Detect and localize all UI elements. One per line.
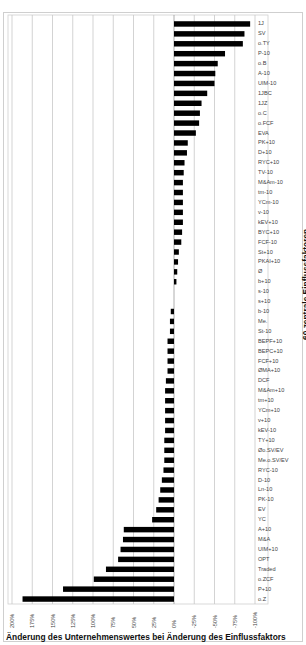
bar (174, 239, 181, 244)
category-label: b+10 (258, 278, 271, 284)
category-label: 1JZ (258, 100, 267, 106)
category-label: tm+10 (258, 397, 274, 403)
category-label: D+10 (258, 149, 272, 155)
bar (106, 567, 174, 572)
category-label: M&Am-10 (258, 179, 283, 185)
x-tick-label: 75% (110, 617, 116, 628)
bar (174, 91, 207, 96)
category-label: FCF+10 (258, 358, 278, 364)
category-label: o.FCF (258, 120, 274, 126)
category-label: FCF-10 (258, 239, 277, 245)
bar (168, 339, 174, 344)
bar (165, 428, 174, 433)
bar (174, 130, 196, 135)
category-label: s-10 (258, 288, 269, 294)
category-label: BYC+10 (258, 229, 279, 235)
category-label: M&A (258, 536, 270, 542)
bar (152, 517, 174, 522)
category-label: St+10 (258, 249, 273, 255)
bar (174, 180, 183, 185)
category-label: OPT (258, 556, 270, 562)
bar (164, 458, 174, 463)
bar (165, 388, 174, 393)
bar (174, 160, 185, 165)
category-label: A-10 (258, 70, 270, 76)
bar (170, 329, 174, 334)
category-label: ØMA+10 (258, 367, 280, 373)
category-label: Me.o.SV/EV (258, 457, 288, 463)
x-tick-label: -50% (212, 615, 218, 628)
bar (156, 507, 174, 512)
bar (174, 120, 199, 125)
category-label: BEPC+10 (258, 348, 283, 354)
category-label: D-10 (258, 477, 270, 483)
category-label: A+10 (258, 526, 271, 532)
bar (174, 51, 225, 56)
category-label: 1JBC (258, 90, 272, 96)
category-label: Me. (258, 318, 267, 324)
category-label: M&Am+10 (258, 387, 284, 393)
x-tick-label: 200% (9, 614, 15, 628)
category-label: 1J (258, 20, 264, 26)
category-label: o.B (258, 60, 266, 66)
category-label: Traded (258, 566, 276, 572)
category-label: RYC+10 (258, 159, 279, 165)
category-label: EVA (258, 130, 269, 136)
category-label: s+10 (258, 298, 270, 304)
bar (174, 229, 182, 234)
category-label: PK+10 (258, 139, 275, 145)
bar (174, 41, 243, 46)
category-label: b-10 (258, 308, 269, 314)
bar (174, 259, 178, 264)
bar (174, 140, 188, 145)
bar (174, 269, 177, 274)
bar (174, 21, 250, 26)
category-label: YCm-10 (258, 199, 279, 205)
category-label: PKAI+10 (258, 258, 280, 264)
category-label: kEV+10 (258, 219, 278, 225)
category-label: o.TY (258, 40, 270, 46)
bar (174, 150, 187, 155)
category-label: St-10 (258, 328, 271, 334)
bar (124, 527, 174, 532)
category-label: v+10 (258, 417, 270, 423)
category-label: YCm+10 (258, 407, 280, 413)
x-tick-label: 0% (171, 620, 177, 628)
category-label: kEV-10 (258, 427, 276, 433)
bar (123, 537, 174, 542)
category-label: DCF (258, 377, 270, 383)
bar (174, 61, 218, 66)
bar (23, 596, 174, 601)
category-label: Øo.SV/EV (258, 447, 284, 453)
category-label: o.C (258, 110, 267, 116)
bar (174, 31, 244, 36)
bar (121, 547, 174, 552)
bar (165, 398, 174, 403)
category-label: v-10 (258, 209, 269, 215)
bar (94, 576, 174, 581)
bar (162, 477, 174, 482)
bar (164, 448, 174, 453)
x-tick-label: -75% (232, 615, 238, 628)
bar (165, 408, 174, 413)
bar (165, 418, 174, 423)
category-label: Ln-10 (258, 486, 272, 492)
category-label: BEPF+10 (258, 338, 282, 344)
bar (168, 358, 174, 363)
bar (118, 557, 174, 562)
x-tick-label: 125% (70, 614, 76, 628)
category-label: tm-10 (258, 189, 272, 195)
category-label: UIM+10 (258, 546, 278, 552)
category-label: o.Z (258, 596, 266, 602)
category-label: Ø (258, 268, 262, 274)
category-label: TY+10 (258, 437, 275, 443)
bar (168, 348, 174, 353)
bar (163, 467, 174, 472)
x-tick-label: -25% (191, 615, 197, 628)
bar (174, 190, 183, 195)
bar (174, 210, 183, 215)
category-label: SV (258, 30, 265, 36)
x-tick-label: 25% (151, 617, 157, 628)
bar (174, 101, 202, 106)
bar (174, 71, 215, 76)
